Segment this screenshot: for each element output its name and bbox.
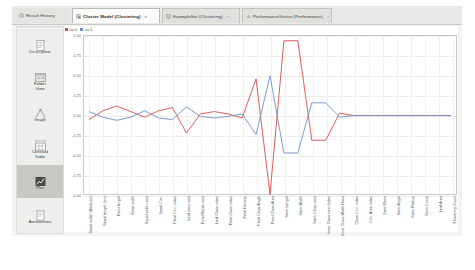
tab-label: PerformanceVector (Performance)	[253, 14, 323, 19]
centroid-plot-panel: av.0 av.1 1.000.750.500.250.00-0.25-0.50…	[64, 26, 458, 232]
cluster-model-icon	[76, 14, 81, 19]
x-axis-tick-label: Class Circ. index	[355, 196, 359, 225]
sidebar-item-label: Centroid Table	[32, 149, 48, 159]
folder-view-icon	[34, 69, 47, 80]
result-tab-bar: Result History Cluster Model (Clustering…	[12, 6, 462, 25]
plot-icon	[34, 173, 47, 184]
x-axis-tick-label: Leaf area ratio	[187, 196, 191, 221]
legend-label: av.0	[70, 27, 78, 32]
y-axis-tick-label: 1.00	[73, 33, 81, 38]
sidebar-item-folder-view[interactable]: Folder View	[17, 63, 63, 96]
x-axis-tick-label: Petal width	[131, 196, 135, 215]
close-icon[interactable]: ×	[145, 14, 147, 19]
x-axis-tick-label: Stem Ratio	[383, 196, 387, 215]
x-axis-tick-label: Sepal width (Attribute)	[89, 196, 93, 233]
x-axis-tick-label: Stem Curve	[425, 196, 429, 216]
tab-label: Cluster Model (Clustering)	[83, 14, 141, 19]
x-axis-tick-label: Stem Angle	[397, 196, 401, 215]
centroid-table-icon	[34, 137, 47, 148]
sidebar-item-label: Description	[29, 49, 51, 54]
chart-line-av.1	[89, 76, 451, 153]
history-icon	[19, 13, 24, 18]
results-frame: Result History Cluster Model (Clustering…	[12, 6, 462, 236]
y-axis-tick-label: -0.25	[72, 133, 81, 138]
tab-exampleset[interactable]: ExampleSet (Clustering) ×	[162, 8, 240, 23]
sidebar-item-annotations[interactable]: Annotations	[17, 199, 63, 232]
annotations-icon	[34, 207, 47, 218]
graph-icon	[34, 105, 47, 116]
tab-label: Result History	[26, 13, 55, 18]
x-axis-tick-label: Petal Class Angle	[257, 196, 261, 226]
legend-swatch	[65, 28, 68, 31]
x-axis-tick-label: Stem Width	[299, 196, 303, 216]
legend-swatch	[80, 28, 83, 31]
x-axis-tick-label: Petal length	[117, 196, 121, 216]
x-axis-tick-label: Sepal length (cm)	[103, 196, 107, 226]
y-axis-tick-label: 0.75	[73, 53, 81, 58]
description-icon	[34, 37, 47, 48]
chart-legend: av.0 av.1	[65, 27, 92, 32]
view-mode-sidebar: Description Folder View Graph Centroid T…	[16, 26, 64, 234]
sidebar-item-label: Graph	[34, 117, 46, 122]
y-axis: 1.000.750.500.250.00-0.25-0.50-0.75-1.00	[64, 35, 82, 195]
close-icon[interactable]: ×	[327, 14, 329, 19]
exampleset-icon	[166, 14, 171, 19]
x-axis-tick-label: Inner Class ratio Index	[327, 196, 331, 234]
x-axis-tick-label: Leaf Area	[439, 196, 443, 212]
results-window: Result History Cluster Model (Clustering…	[0, 0, 475, 270]
x-axis-tick-label: Sepal Circ.	[159, 196, 163, 215]
x-axis-tick-label: Petal Class Area	[271, 196, 275, 224]
plot-area[interactable]	[83, 35, 457, 195]
x-axis-tick-label: Petal Density	[243, 196, 247, 218]
chart-series-svg	[84, 36, 456, 195]
x-axis-tick-label: Petal/Sepal ratio	[201, 196, 205, 224]
x-axis-tick-label: Petal Class index	[229, 196, 233, 225]
sidebar-item-label: Annotations	[29, 219, 52, 224]
sidebar-item-description[interactable]: Description	[17, 29, 63, 62]
tab-result-history[interactable]: Result History	[16, 8, 68, 23]
x-axis-tick-label: Circ. Area index	[369, 196, 373, 223]
tab-label: ExampleSet (Clustering)	[173, 14, 223, 19]
x-axis-tick-label: Petal Circ. index	[173, 196, 177, 224]
sidebar-item-plot[interactable]: Plot	[17, 165, 63, 198]
legend-entry: av.0	[65, 27, 77, 32]
sidebar-item-label: Plot	[36, 185, 43, 190]
x-axis-tick-label: Stem Class ratio	[313, 196, 317, 224]
tab-performance-vector[interactable]: PerformanceVector (Performance) ×	[242, 8, 332, 23]
performance-icon	[246, 14, 251, 19]
sidebar-item-centroid-table[interactable]: Centroid Table	[17, 131, 63, 164]
legend-entry: av.1	[80, 27, 92, 32]
x-axis-tick-label: Flowering Count	[453, 196, 457, 224]
x-axis-tick-label: Stem Length	[285, 196, 289, 217]
sidebar-item-label: Folder View	[34, 81, 46, 91]
y-axis-tick-label: -0.75	[72, 173, 81, 178]
y-axis-tick-label: 0.00	[73, 113, 81, 118]
legend-label: av.1	[85, 27, 93, 32]
y-axis-tick-label: 0.50	[73, 73, 81, 78]
x-axis-tick-label: Sepal width ratio	[145, 196, 149, 224]
y-axis-tick-label: -1.00	[72, 193, 81, 198]
close-icon[interactable]: ×	[227, 14, 229, 19]
chart-line-av.0	[89, 41, 451, 195]
y-axis-tick-label: 0.25	[73, 93, 81, 98]
x-axis-tick-label: Inner Class Width Ratio	[341, 196, 345, 236]
x-axis-labels: Sepal width (Attribute)Sepal length (cm)…	[83, 196, 457, 232]
tab-cluster-model[interactable]: Cluster Model (Clustering) ×	[72, 8, 160, 23]
y-axis-tick-label: -0.50	[72, 153, 81, 158]
x-axis-tick-label: Stem Radius	[411, 196, 415, 218]
x-axis-tick-label: Leaf Class index	[215, 196, 219, 224]
sidebar-item-graph[interactable]: Graph	[17, 97, 63, 130]
